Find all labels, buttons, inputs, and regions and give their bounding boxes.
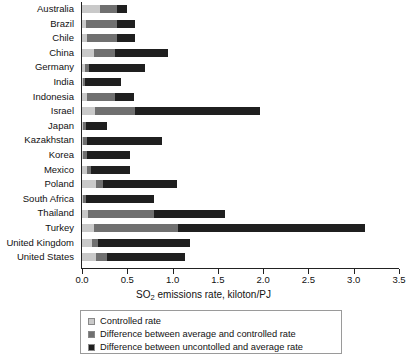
- bar-row: [82, 206, 400, 221]
- stacked-bar: [82, 151, 130, 159]
- bar-segment: [115, 49, 168, 57]
- category-label: Japan: [0, 119, 78, 134]
- bar-row: [82, 104, 400, 119]
- so2-emissions-bar-chart: AustraliaBrazilChileChinaGermanyIndiaInd…: [0, 0, 407, 360]
- legend-label: Controlled rate: [100, 316, 161, 326]
- bar-row: [82, 177, 400, 192]
- x-axis-tick-labels: 0.00.51.01.52.02.53.03.5: [0, 274, 407, 288]
- bar-segment: [87, 34, 118, 42]
- stacked-bar: [82, 122, 107, 130]
- bar-segment: [117, 34, 135, 42]
- bar-segment: [94, 49, 115, 57]
- bar-row: [82, 133, 400, 148]
- category-label: Australia: [0, 2, 78, 17]
- bar-segment: [107, 253, 185, 261]
- bar-segment: [87, 151, 130, 159]
- bar-row: [82, 17, 400, 32]
- category-label: China: [0, 46, 78, 61]
- category-label: Poland: [0, 177, 78, 192]
- stacked-bar: [82, 137, 162, 145]
- bar-segment: [154, 210, 226, 218]
- category-label: United States: [0, 250, 78, 265]
- bar-segment: [178, 224, 365, 232]
- bar-row: [82, 60, 400, 75]
- bar-row: [82, 250, 400, 265]
- category-label: Germany: [0, 60, 78, 75]
- bar-segment: [82, 253, 96, 261]
- category-label: Korea: [0, 148, 78, 163]
- category-label: Turkey: [0, 221, 78, 236]
- bar-segment: [100, 5, 117, 13]
- bar-segment: [88, 210, 153, 218]
- category-axis-labels: AustraliaBrazilChileChinaGermanyIndiaInd…: [0, 2, 78, 266]
- legend-label: Difference between average and controlle…: [100, 329, 296, 339]
- x-tick-label: 0.5: [121, 274, 134, 285]
- category-label: United Kingdom: [0, 236, 78, 251]
- legend-item: Controlled rate: [88, 315, 335, 327]
- bar-segment: [86, 122, 108, 130]
- bar-segment: [95, 107, 136, 115]
- bar-row: [82, 163, 400, 178]
- bar-segment: [82, 49, 94, 57]
- bar-segment: [82, 180, 96, 188]
- stacked-bar: [82, 239, 190, 247]
- bar-row: [82, 90, 400, 105]
- x-tick-label: 1.5: [211, 274, 224, 285]
- stacked-bar: [82, 224, 365, 232]
- bar-segment: [87, 137, 162, 145]
- bar-segment: [117, 5, 127, 13]
- bar-segment: [96, 253, 107, 261]
- bar-segment: [82, 5, 100, 13]
- bar-segment: [135, 107, 259, 115]
- x-axis-title-subscript: 2: [151, 293, 155, 302]
- legend-label: Difference between uncontolled and avera…: [100, 342, 303, 352]
- stacked-bar: [82, 107, 260, 115]
- x-tick-label: 3.5: [392, 274, 405, 285]
- category-label: Israel: [0, 104, 78, 119]
- bar-segment: [82, 107, 95, 115]
- bar-row: [82, 119, 400, 134]
- category-label: Kazakhstan: [0, 133, 78, 148]
- x-tick-label: 2.5: [302, 274, 315, 285]
- stacked-bar: [82, 49, 168, 57]
- bar-row: [82, 2, 400, 17]
- category-label: India: [0, 75, 78, 90]
- x-tick-label: 2.0: [257, 274, 270, 285]
- x-tick-label: 1.0: [166, 274, 179, 285]
- bar-row: [82, 31, 400, 46]
- bar-segment: [96, 180, 103, 188]
- bar-row: [82, 75, 400, 90]
- bar-segment: [86, 195, 155, 203]
- chart-legend: Controlled rateDifference between averag…: [80, 310, 342, 354]
- x-tick-label: 0.0: [75, 274, 88, 285]
- category-label: Mexico: [0, 163, 78, 178]
- bar-segment: [94, 224, 178, 232]
- stacked-bar: [82, 64, 145, 72]
- stacked-bar: [82, 34, 135, 42]
- legend-swatch: [88, 344, 95, 351]
- legend-swatch: [88, 318, 95, 325]
- x-axis-title-pre: SO: [136, 289, 150, 300]
- bar-segment: [82, 239, 92, 247]
- bar-segment: [89, 64, 145, 72]
- bar-segment: [91, 166, 130, 174]
- category-label: Indonesia: [0, 90, 78, 105]
- legend-swatch: [88, 331, 95, 338]
- y-axis-line: [81, 2, 82, 269]
- stacked-bar: [82, 166, 130, 174]
- bar-segment: [86, 20, 118, 28]
- legend-item: Difference between uncontolled and avera…: [88, 341, 335, 353]
- stacked-bar: [82, 210, 225, 218]
- bar-row: [82, 46, 400, 61]
- stacked-bar: [82, 195, 154, 203]
- bar-segment: [82, 224, 94, 232]
- category-label: Brazil: [0, 17, 78, 32]
- plot-area: AustraliaBrazilChileChinaGermanyIndiaInd…: [0, 0, 407, 270]
- x-axis-title: SO2 emissions rate, kiloton/PJ: [0, 289, 407, 300]
- stacked-bar: [82, 253, 185, 261]
- bar-segment: [115, 93, 134, 101]
- category-label: Thailand: [0, 206, 78, 221]
- bar-segment: [117, 20, 135, 28]
- bar-row: [82, 192, 400, 207]
- stacked-bar: [82, 180, 177, 188]
